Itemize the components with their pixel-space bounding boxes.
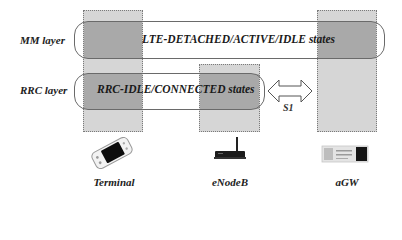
rrc-states-text: RRC-IDLE/CONNECTED states — [97, 83, 255, 95]
s1-interface-label: S1 — [283, 102, 294, 113]
wireless-router-icon — [212, 136, 248, 162]
terminal-label: Terminal — [84, 176, 144, 188]
handheld-terminal-icon — [86, 137, 138, 169]
double-arrow-icon — [267, 79, 313, 103]
mm-layer-label: MM layer — [20, 34, 65, 46]
gateway-server-icon — [321, 144, 369, 164]
enodeb-label: eNodeB — [200, 176, 260, 188]
rrc-layer-label: RRC layer — [20, 84, 67, 96]
agw-label: aGW — [317, 176, 377, 188]
mm-states-text: LTE-DETACHED/ACTIVE/IDLE states — [142, 33, 335, 45]
